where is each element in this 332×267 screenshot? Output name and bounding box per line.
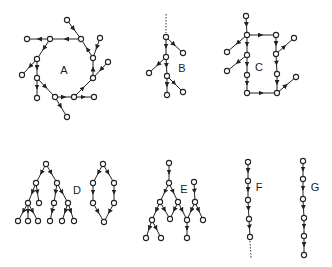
node-circle-icon (47, 218, 52, 223)
node-circle-icon (36, 200, 41, 205)
node-circle-icon (90, 55, 95, 60)
arrowhead-icon (164, 209, 166, 212)
node-circle-icon (200, 217, 205, 222)
node-circle-icon (90, 180, 95, 185)
node-circle-icon (191, 179, 196, 184)
node-circle-icon (65, 200, 70, 205)
node-circle-icon (163, 34, 168, 39)
node-circle-icon (224, 68, 229, 73)
arrowhead-icon (60, 105, 62, 108)
node-circle-icon (71, 94, 76, 99)
arrowhead-icon (182, 209, 183, 212)
arrowhead-icon (191, 209, 192, 212)
node-circle-icon (101, 219, 106, 224)
node-circle-icon (245, 197, 250, 202)
graph-f (245, 159, 252, 258)
arrowhead-icon (109, 211, 110, 214)
node-circle-icon (180, 50, 185, 55)
graph-label-b: B (178, 63, 185, 74)
arrowhead-icon (236, 62, 238, 64)
node-circle-icon (91, 94, 96, 99)
node-circle-icon (158, 235, 163, 240)
arrowhead-icon (173, 191, 174, 194)
node-circle-icon (163, 54, 168, 59)
node-circle-icon (34, 95, 39, 100)
node-circle-icon (243, 13, 248, 18)
arrowhead-icon (86, 48, 88, 51)
node-circle-icon (244, 72, 249, 77)
arrowhead-icon (73, 28, 75, 30)
arrowhead-icon (100, 69, 102, 71)
node-circle-icon (166, 160, 171, 165)
node-circle-icon (244, 52, 249, 57)
node-circle-icon (175, 199, 180, 204)
arrowhead-icon (70, 210, 71, 213)
node-circle-icon (51, 200, 56, 205)
graph-c (224, 13, 298, 95)
arrowhead-icon (45, 86, 47, 88)
node-circle-icon (111, 200, 116, 205)
node-circle-icon (244, 90, 249, 95)
node-circle-icon (157, 199, 162, 204)
node-circle-icon (300, 196, 305, 201)
node-circle-icon (274, 71, 279, 76)
node-circle-icon (105, 59, 110, 64)
continuation-dots (250, 241, 251, 258)
node-circle-icon (184, 217, 189, 222)
arrowhead-icon (156, 227, 157, 230)
arrowhead-icon (157, 64, 159, 66)
arrowhead-icon (236, 42, 238, 44)
node-circle-icon (34, 56, 39, 61)
arrowhead-icon (65, 210, 66, 213)
arrowhead-icon (284, 45, 286, 47)
node-circle-icon (25, 218, 30, 223)
arrowhead-icon (23, 210, 24, 213)
arrowhead-icon (164, 191, 165, 194)
node-circle-icon (54, 180, 59, 185)
arrowhead-icon (174, 83, 176, 85)
node-circle-icon (291, 35, 296, 40)
graph-label-g: G (311, 182, 320, 193)
node-circle-icon (43, 161, 48, 166)
node-circle-icon (143, 235, 148, 240)
node-circle-icon (71, 218, 76, 223)
node-circle-icon (164, 92, 169, 97)
node-circle-icon (273, 51, 278, 56)
node-circle-icon (166, 180, 171, 185)
node-circle-icon (224, 49, 229, 54)
arrowhead-icon (149, 227, 150, 230)
node-circle-icon (15, 218, 20, 223)
arrowhead-icon (32, 210, 33, 213)
node-circle-icon (24, 36, 29, 41)
node-circle-icon (300, 158, 305, 163)
arrowhead-icon (52, 210, 53, 213)
graph-label-e: E (180, 184, 187, 195)
node-circle-icon (244, 32, 249, 37)
arrowhead-icon (41, 172, 42, 175)
node-circle-icon (100, 161, 105, 166)
arrowhead-icon (98, 172, 99, 175)
arrowhead-icon (173, 44, 175, 46)
node-circle-icon (78, 36, 83, 41)
node-circle-icon (35, 218, 40, 223)
arrowhead-icon (96, 46, 97, 49)
arrowhead-icon (29, 66, 31, 68)
node-circle-icon (245, 159, 250, 164)
node-circle-icon (149, 217, 154, 222)
arrowhead-icon (174, 209, 175, 212)
node-circle-icon (33, 180, 38, 185)
arrowhead-icon (50, 172, 52, 175)
arrowhead-icon (32, 191, 33, 194)
node-circle-icon (180, 89, 185, 94)
node-circle-icon (247, 234, 252, 239)
node-circle-icon (300, 176, 305, 181)
node-circle-icon (146, 70, 151, 75)
node-circle-icon (64, 114, 69, 119)
node-circle-icon (19, 72, 24, 77)
node-circle-icon (52, 94, 57, 99)
arrowhead-icon (62, 191, 63, 194)
diagram-canvas: A B C D E F G (0, 0, 332, 267)
arrowhead-icon (156, 209, 157, 212)
node-circle-icon (245, 178, 250, 183)
node-circle-icon (34, 75, 39, 80)
